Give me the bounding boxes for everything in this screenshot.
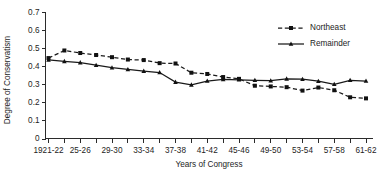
data-point-marker (364, 96, 368, 100)
data-point-marker (285, 85, 289, 89)
x-tick-label: 1921-22 (33, 146, 63, 155)
x-tick-label: 61-62 (356, 146, 377, 155)
y-tick-label: 0.1 (28, 116, 40, 125)
data-point-marker (126, 58, 130, 62)
y-tick-label: 0 (35, 134, 40, 143)
chart-legend: NortheastRemainder (278, 23, 350, 48)
data-point-marker (158, 61, 162, 65)
x-tick-label: 49-50 (260, 146, 281, 155)
y-tick-label: 0.3 (28, 80, 40, 89)
data-point-marker (142, 58, 146, 62)
x-tick-label: 33-34 (133, 146, 154, 155)
y-tick-label: 0.5 (28, 44, 40, 53)
legend-label-northeast: Northeast (310, 23, 346, 32)
data-point-marker (174, 62, 178, 66)
data-point-marker (316, 86, 320, 90)
data-point-marker (221, 75, 225, 79)
y-axis-title: Degree of Conservatism (3, 36, 12, 124)
x-axis-ticks: 1921-2225-2629-3033-3437-3841-4245-4649-… (33, 139, 376, 155)
data-point-marker (253, 84, 257, 88)
y-axis-ticks: 00.10.20.30.40.50.60.7 (28, 8, 45, 144)
x-tick-label: 41-42 (197, 146, 218, 155)
y-tick-label: 0.4 (28, 62, 40, 71)
x-tick-label: 45-46 (229, 146, 250, 155)
data-point-marker (269, 84, 273, 88)
data-point-marker (94, 53, 98, 57)
data-point-marker (62, 48, 66, 52)
chart-container: Degree of Conservatism 00.10.20.30.40.50… (0, 0, 380, 175)
data-point-marker (237, 77, 241, 81)
data-point-marker (205, 72, 209, 76)
y-tick-label: 0.2 (28, 98, 40, 107)
data-point-marker (189, 71, 193, 75)
y-tick-label: 0.7 (28, 8, 40, 17)
legend-marker-northeast (289, 26, 293, 30)
conservatism-line-chart: Degree of Conservatism 00.10.20.30.40.50… (0, 0, 380, 175)
x-tick-label: 25-26 (70, 146, 91, 155)
data-point-marker (110, 55, 114, 59)
data-point-marker (332, 88, 336, 92)
data-point-marker (348, 95, 352, 99)
data-point-marker (47, 56, 51, 60)
x-tick-label: 29-30 (102, 146, 123, 155)
y-tick-label: 0.6 (28, 26, 40, 35)
x-tick-label: 53-54 (292, 146, 313, 155)
x-axis-title-label: Years of Congress (175, 160, 242, 169)
data-point-marker (78, 51, 82, 55)
legend-label-remainder: Remainder (310, 39, 350, 48)
data-point-marker (301, 89, 305, 93)
x-tick-label: 37-38 (165, 146, 186, 155)
series-northeast (47, 48, 369, 100)
x-tick-label: 57-58 (324, 146, 345, 155)
y-axis-title-label: Degree of Conservatism (3, 36, 12, 124)
